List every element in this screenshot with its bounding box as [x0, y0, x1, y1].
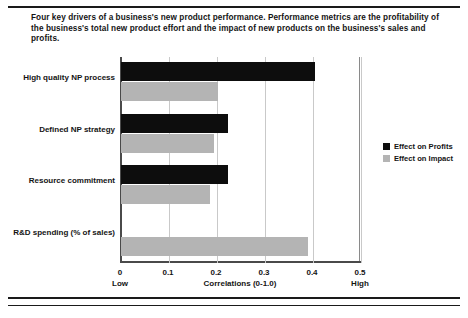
x-tick-label: 0.3 [244, 268, 284, 277]
legend-label: Effect on Profits [394, 142, 453, 151]
footer-divider-rule-2 [8, 305, 460, 306]
footer-divider-rule-1 [8, 297, 460, 299]
legend-swatch-profits [383, 143, 390, 150]
plot-area [120, 57, 360, 263]
bar [121, 82, 218, 101]
gridline-0-4 [313, 57, 314, 263]
bar [121, 134, 214, 153]
x-tick-label: 0.5 [340, 268, 380, 277]
category-label: R&D spending (% of sales) [13, 228, 115, 237]
bar [121, 237, 308, 256]
legend-item: Effect on Impact [383, 153, 453, 163]
x-tick-label: 0 [100, 268, 140, 277]
category-label: High quality NP process [23, 73, 115, 82]
x-axis-title: Correlations (0-1.0) [180, 279, 300, 288]
bar [121, 114, 228, 133]
x-axis-high-label: High [340, 279, 380, 288]
x-tick-label: 0.1 [148, 268, 188, 277]
gridline-0-3 [265, 57, 266, 263]
legend-swatch-impact [383, 155, 390, 162]
chart-legend: Effect on ProfitsEffect on Impact [383, 141, 453, 165]
x-tick-label: 0.4 [292, 268, 332, 277]
x-axis-low-label: Low [100, 279, 140, 288]
gridline-0-5 [361, 57, 362, 263]
legend-item: Effect on Profits [383, 141, 453, 151]
category-label: Defined NP strategy [39, 125, 115, 134]
legend-label: Effect on Impact [394, 154, 453, 163]
bar [121, 165, 228, 184]
bar [121, 185, 210, 204]
bar-chart-figure: High quality NP processDefined NP strate… [0, 0, 468, 318]
x-tick-label: 0.2 [196, 268, 236, 277]
bar [121, 62, 315, 81]
category-label: Resource commitment [29, 176, 115, 185]
x-axis-line [120, 261, 362, 263]
